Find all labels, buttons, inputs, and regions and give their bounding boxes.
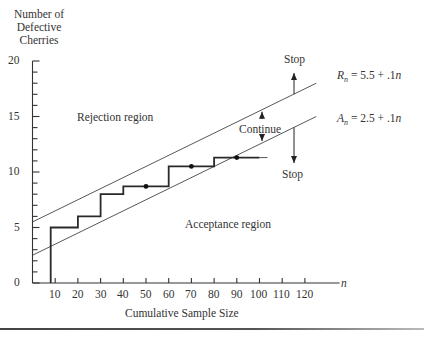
y-axis-label-line3: Cherries — [3, 34, 75, 47]
x-tick-100: 100 — [250, 288, 267, 300]
x-tick-70: 70 — [185, 288, 197, 300]
y-tick-20: 20 — [8, 54, 20, 66]
x-tick-50: 50 — [140, 288, 152, 300]
x-axis-label: Cumulative Sample Size — [125, 307, 239, 320]
continue-label: Continue — [239, 123, 281, 136]
bottom-rule — [0, 328, 424, 330]
boundary-lines — [33, 83, 317, 255]
stop-label-top: Stop — [284, 53, 305, 66]
y-axis-label: Number of Defective Cherries — [3, 8, 75, 47]
y-axis-label-line1: Number of — [3, 8, 75, 21]
y-axis-label-line2: Defective — [3, 21, 75, 34]
x-tick-120: 120 — [296, 288, 313, 300]
x-tick-10: 10 — [49, 288, 61, 300]
x-tick-80: 80 — [208, 288, 220, 300]
x-tick-60: 60 — [163, 288, 175, 300]
stop-label-bottom: Stop — [282, 168, 303, 181]
x-tick-20: 20 — [72, 288, 84, 300]
y-tick-10: 10 — [8, 165, 20, 177]
x-tick-30: 30 — [95, 288, 107, 300]
arrows — [259, 73, 297, 163]
rejection-region-label: Rejection region — [77, 111, 153, 124]
rn-equation: Rn = 5.5 + .1n — [337, 69, 401, 86]
acceptance-region-label: Acceptance region — [185, 218, 271, 231]
y-tick-0: 0 — [14, 276, 20, 288]
an-equation: An = 2.5 + .1n — [337, 112, 401, 129]
x-tick-40: 40 — [117, 288, 129, 300]
x-axis-variable: n — [341, 277, 347, 290]
y-tick-5: 5 — [14, 221, 20, 233]
x-tick-90: 90 — [231, 288, 243, 300]
x-tick-110: 110 — [273, 288, 290, 300]
y-tick-15: 15 — [8, 110, 20, 122]
